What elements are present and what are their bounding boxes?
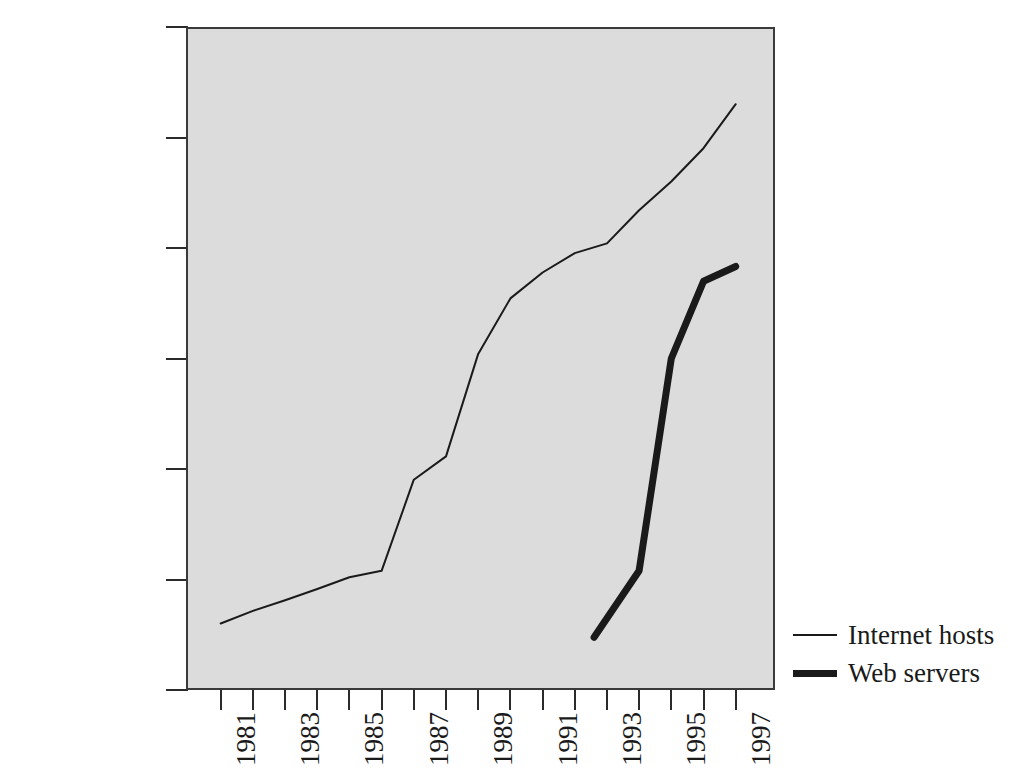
legend-label: Web servers bbox=[837, 657, 980, 689]
x-tick-label: 1993 bbox=[617, 712, 647, 766]
x-tick-label: 1981 bbox=[231, 712, 261, 766]
x-tick-mark bbox=[542, 690, 544, 710]
y-tick-mark bbox=[166, 137, 188, 139]
plot-area bbox=[186, 27, 775, 690]
x-tick-label: 1987 bbox=[424, 712, 454, 766]
x-tick-mark bbox=[252, 690, 254, 710]
y-tick-mark bbox=[166, 358, 188, 360]
x-tick-label: 1989 bbox=[488, 712, 518, 766]
x-tick-mark bbox=[413, 690, 415, 710]
x-tick-label: 1983 bbox=[295, 712, 325, 766]
y-tick-mark bbox=[166, 689, 188, 691]
x-tick-mark bbox=[477, 690, 479, 710]
y-tick-mark bbox=[166, 247, 188, 249]
x-tick-mark bbox=[284, 690, 286, 710]
legend-label: Internet hosts bbox=[837, 619, 994, 651]
x-tick-mark bbox=[670, 690, 672, 710]
x-tick-mark bbox=[445, 690, 447, 710]
x-tick-mark bbox=[220, 690, 222, 710]
x-tick-mark bbox=[703, 690, 705, 710]
legend-line-icon bbox=[793, 670, 837, 677]
x-tick-mark bbox=[606, 690, 608, 710]
legend-item[interactable]: Web servers bbox=[793, 654, 1008, 692]
x-tick-label: 1995 bbox=[681, 712, 711, 766]
x-tick-mark bbox=[574, 690, 576, 710]
series-line-internet-hosts bbox=[221, 104, 736, 623]
series-line-web-servers bbox=[594, 267, 736, 638]
x-tick-mark bbox=[348, 690, 350, 710]
y-tick-mark bbox=[166, 468, 188, 470]
y-tick-mark bbox=[166, 26, 188, 28]
legend-line-icon bbox=[793, 634, 837, 636]
chart-legend: Internet hostsWeb servers bbox=[793, 616, 1008, 692]
legend-item[interactable]: Internet hosts bbox=[793, 616, 1008, 654]
x-tick-mark bbox=[735, 690, 737, 710]
x-tick-label: 1997 bbox=[746, 712, 776, 766]
series-canvas bbox=[188, 29, 773, 688]
x-tick-mark bbox=[509, 690, 511, 710]
x-tick-mark bbox=[381, 690, 383, 710]
y-tick-mark bbox=[166, 579, 188, 581]
x-tick-mark bbox=[316, 690, 318, 710]
x-tick-mark bbox=[638, 690, 640, 710]
x-tick-label: 1985 bbox=[359, 712, 389, 766]
x-tick-label: 1991 bbox=[553, 712, 583, 766]
chart-figure: 100,000,00010,000,0001,000,000100,00010,… bbox=[0, 0, 1012, 776]
